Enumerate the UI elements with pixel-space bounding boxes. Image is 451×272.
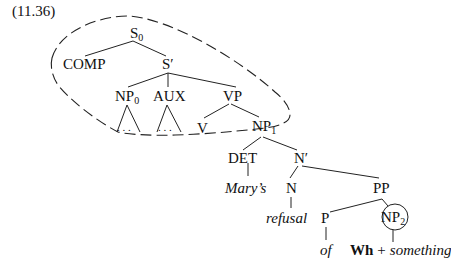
- word-something: something: [390, 242, 451, 258]
- word-of: of: [320, 242, 334, 258]
- word-wh: Wh: [350, 242, 374, 258]
- word-refusal: refusal: [266, 210, 307, 226]
- node-s0: S0: [130, 25, 143, 43]
- node-n-bar: N′: [294, 150, 308, 166]
- node-np2: NP2: [381, 209, 405, 227]
- word-marys: Mary’s: [224, 180, 267, 196]
- node-v: V: [197, 120, 208, 136]
- node-aux: AUX: [153, 88, 186, 104]
- aux-ellipsis: . . .: [158, 121, 172, 133]
- node-det: DET: [228, 150, 257, 166]
- wh-something: Wh+something: [350, 242, 451, 258]
- node-n: N: [286, 180, 297, 196]
- node-vp: VP: [223, 88, 242, 104]
- node-np1: NP1: [252, 118, 276, 136]
- np0-ellipsis: . . .: [117, 121, 131, 133]
- node-s-bar: S′: [162, 56, 174, 72]
- node-p: P: [321, 210, 329, 226]
- plus-sign: +: [377, 242, 385, 258]
- example-number: (11.36): [12, 3, 55, 20]
- tree-edges: [85, 41, 393, 242]
- node-comp: COMP: [63, 56, 106, 72]
- node-np0: NP0: [115, 88, 139, 106]
- syntax-tree-diagram: (11.36) S0 COMP: [0, 0, 451, 272]
- node-pp: PP: [373, 180, 390, 196]
